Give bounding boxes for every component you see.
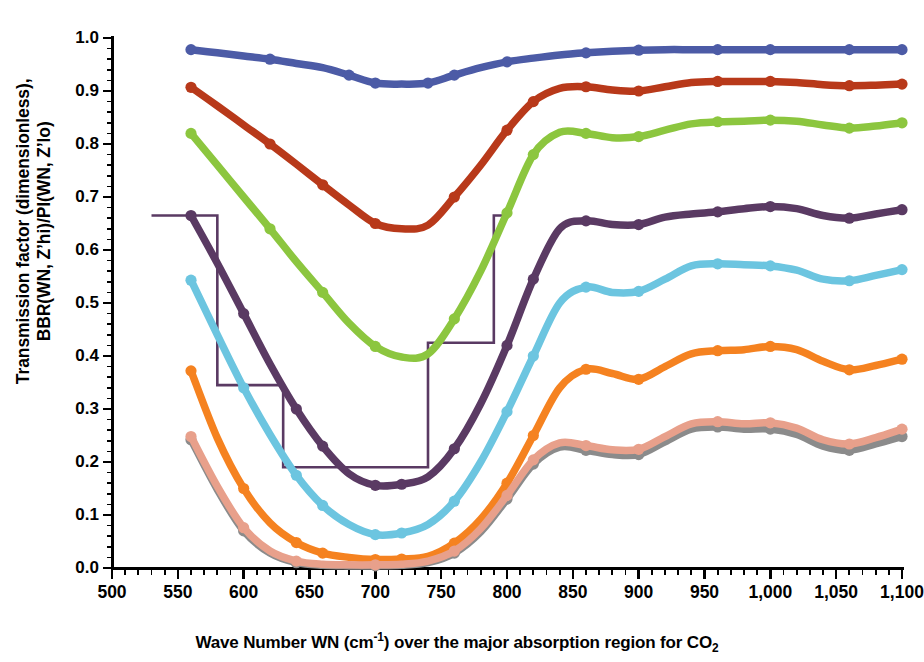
x-tick-minor: [559, 569, 561, 575]
series-marker: [633, 45, 644, 56]
x-tick-minor: [585, 569, 587, 575]
series-marker: [501, 406, 512, 417]
series-marker: [896, 79, 907, 90]
series-marker: [449, 496, 460, 507]
x-tick-minor: [467, 569, 469, 575]
y-axis-ticks: 0.00.10.20.30.40.50.60.70.80.91.0: [0, 0, 112, 662]
x-tick-minor: [493, 569, 495, 575]
series-marker: [633, 131, 644, 142]
x-tick-major: [572, 569, 574, 579]
series-marker: [844, 213, 855, 224]
y-tick-label: 0.4: [75, 346, 99, 366]
series-marker: [580, 47, 591, 58]
series-marker: [185, 44, 196, 55]
series-marker: [765, 260, 776, 271]
x-tick-minor: [203, 569, 205, 575]
series-marker: [370, 529, 381, 540]
plot-area: [112, 38, 902, 568]
series-marker: [580, 215, 591, 226]
x-tick-label: 550: [163, 582, 192, 603]
series-marker: [528, 454, 539, 465]
y-tick-major: [103, 196, 112, 198]
series-marker: [765, 341, 776, 352]
x-tick-minor: [414, 569, 416, 575]
x-tick-minor: [862, 569, 864, 575]
series-marker: [633, 286, 644, 297]
series-marker: [317, 287, 328, 298]
x-tick-minor: [282, 569, 284, 575]
series-marker: [317, 500, 328, 511]
series-marker: [449, 545, 460, 556]
step-approximation-line: [152, 216, 508, 468]
series-marker: [844, 275, 855, 286]
x-tick-label: 650: [295, 582, 324, 603]
series-marker: [896, 424, 907, 435]
series-marker: [580, 282, 591, 293]
series-marker: [580, 81, 591, 92]
series-marker: [765, 115, 776, 126]
y-tick-major: [103, 461, 112, 463]
series-marker: [185, 275, 196, 286]
x-tick-major: [440, 569, 442, 579]
series-marker: [501, 340, 512, 351]
series-marker: [633, 219, 644, 230]
x-tick-minor: [888, 569, 890, 575]
series-marker: [422, 77, 433, 88]
y-tick-major: [103, 249, 112, 251]
series-marker: [580, 128, 591, 139]
series-marker: [528, 96, 539, 107]
x-tick-minor: [401, 569, 403, 575]
y-tick-label: 0.6: [75, 240, 99, 260]
x-tick-label: 950: [690, 582, 719, 603]
x-tick-minor: [756, 569, 758, 575]
series-marker: [633, 85, 644, 96]
x-tick-minor: [625, 569, 627, 575]
y-tick-major: [103, 143, 112, 145]
x-tick-label: 600: [229, 582, 258, 603]
series-marker: [396, 479, 407, 490]
y-tick-label: 0.8: [75, 134, 99, 154]
y-tick-major: [103, 514, 112, 516]
series-marker: [238, 483, 249, 494]
series-marker: [264, 54, 275, 65]
series-marker: [712, 416, 723, 427]
y-tick-major: [103, 37, 112, 39]
series-marker: [633, 374, 644, 385]
x-tick-label: 1,000: [748, 582, 792, 603]
x-tick-minor: [427, 569, 429, 575]
x-tick-minor: [480, 569, 482, 575]
series-marker: [501, 56, 512, 67]
x-axis-title: Wave Number WN (cm-1) over the major abs…: [0, 630, 914, 655]
series-marker: [317, 179, 328, 190]
series-marker: [896, 354, 907, 365]
series-marker: [449, 70, 460, 81]
x-tick-minor: [388, 569, 390, 575]
series-marker: [370, 218, 381, 229]
series-marker: [238, 308, 249, 319]
x-tick-minor: [453, 569, 455, 575]
series-marker: [238, 382, 249, 393]
x-tick-minor: [532, 569, 534, 575]
series-marker: [185, 210, 196, 221]
series-marker: [765, 201, 776, 212]
series-marker: [580, 364, 591, 375]
x-tick-minor: [611, 569, 613, 575]
x-tick-label: 500: [97, 582, 126, 603]
x-tick-label: 1,100: [880, 582, 924, 603]
series-marker: [370, 77, 381, 88]
x-tick-minor: [216, 569, 218, 575]
x-tick-minor: [717, 569, 719, 575]
x-tick-label: 1,050: [814, 582, 858, 603]
x-axis-title-pre: Wave Number WN (cm: [195, 633, 373, 652]
series-marker: [712, 258, 723, 269]
series-marker: [844, 364, 855, 375]
x-tick-minor: [677, 569, 679, 575]
series-marker: [370, 559, 381, 570]
series-marker: [291, 537, 302, 548]
series-marker: [712, 345, 723, 356]
x-tick-minor: [783, 569, 785, 575]
series-marker: [317, 548, 328, 559]
x-axis-title-subscript: 2: [712, 641, 718, 655]
series-marker: [896, 117, 907, 128]
series-marker: [291, 403, 302, 414]
